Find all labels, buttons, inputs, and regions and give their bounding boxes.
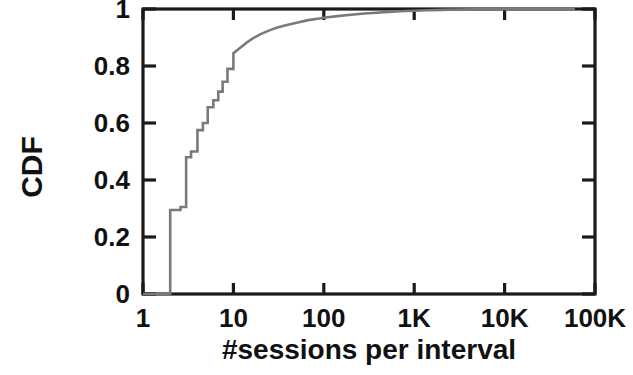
y-tick-label: 0.6 [94, 110, 130, 136]
y-tick-marks [143, 9, 595, 294]
x-axis-title: #sessions per interval [143, 336, 595, 364]
x-tick-label: 10 [219, 305, 248, 331]
x-tick-label: 100K [564, 305, 626, 331]
cdf-series-line [143, 9, 575, 294]
x-tick-marks [143, 9, 595, 294]
x-tick-label: 1K [398, 305, 431, 331]
x-tick-label: 10K [481, 305, 529, 331]
y-tick-label: 0.4 [94, 167, 130, 193]
y-tick-label: 0 [116, 281, 130, 307]
y-tick-label: 0.2 [94, 224, 130, 250]
cdf-chart-figure: 00.20.40.60.81 1101001K10K100K CDF #sess… [0, 0, 633, 375]
axis-frame [143, 9, 595, 294]
y-axis-title: CDF [17, 107, 47, 227]
cdf-curve [143, 9, 575, 294]
plot-border [143, 9, 595, 294]
y-tick-label: 1 [116, 0, 130, 22]
x-tick-label: 100 [302, 305, 345, 331]
y-tick-label: 0.8 [94, 53, 130, 79]
x-tick-label: 1 [136, 305, 150, 331]
